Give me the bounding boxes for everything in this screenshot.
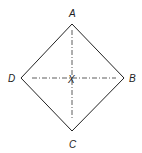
diamond-diagram: A B C D X: [0, 0, 142, 153]
label-a: A: [68, 8, 76, 19]
label-d: D: [8, 73, 15, 84]
label-x: X: [67, 74, 75, 85]
label-c: C: [69, 139, 77, 150]
label-b: B: [129, 73, 136, 84]
